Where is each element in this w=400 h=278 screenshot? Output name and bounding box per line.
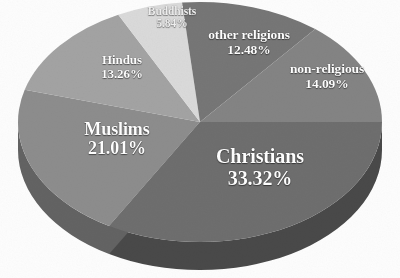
pie-chart-graphic: [0, 0, 400, 278]
pie-top-face: [18, 2, 382, 242]
pie-chart: Christians 33.32% Muslims 21.01% Hindus …: [0, 0, 400, 278]
